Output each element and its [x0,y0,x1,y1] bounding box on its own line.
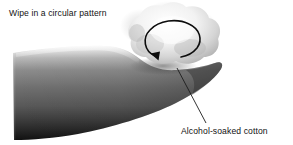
illustration-canvas [0,0,293,145]
illustration-figure: Wipe in a circular pattern Alcohol-soake… [0,0,293,145]
cotton-label: Alcohol-soaked cotton [181,126,268,136]
left-edge-feather [0,44,16,144]
page-title: Wipe in a circular pattern [9,8,107,18]
cotton-shade-left [129,24,145,42]
alcohol-soaked-cotton [120,1,220,64]
